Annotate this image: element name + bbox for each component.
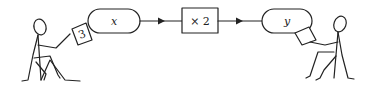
function-machine-diagram: 3 x × 2 y: [0, 0, 377, 85]
left-stick-figure: [22, 18, 80, 81]
function-label: × 2: [190, 15, 210, 28]
arrow-head-2: [236, 18, 243, 25]
arrow-head-1: [158, 18, 165, 25]
input-label: x: [111, 15, 118, 28]
right-stick-figure: [306, 14, 354, 80]
output-label: y: [283, 15, 291, 28]
